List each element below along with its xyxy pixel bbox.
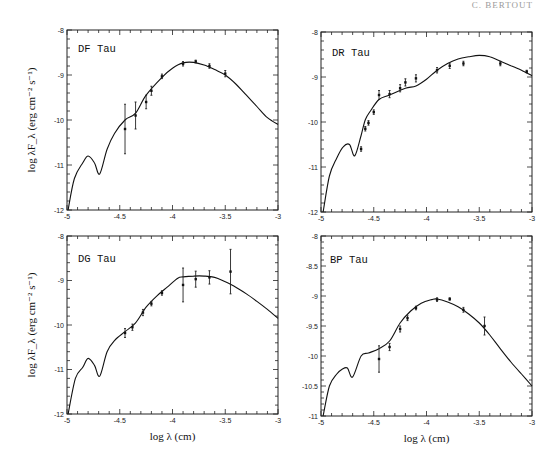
y-tick-label: -11 [54,366,64,373]
y-tick-label: -11 [54,162,64,169]
observation-point [364,127,366,132]
sed-panel-bp-tau: -5-4.5-4-3.5-3-11-10.5-10-9.5-9-8.5-8BP … [302,233,535,446]
y-tick-label: -10 [308,353,318,360]
star-name-label: DG Tau [78,253,116,265]
y-tick-label: -10 [54,117,64,124]
observation-point [373,110,375,115]
y-tick-label: -12 [54,411,64,418]
y-tick-label: -12 [308,209,318,216]
observation-point [462,61,464,66]
y-tick-label: -8 [312,233,318,240]
x-tick-label: -4.5 [368,419,380,426]
x-tick-label: -4.5 [368,215,380,222]
star-name-label: DR Tau [332,47,370,59]
observation-point [229,249,231,294]
y-axis-label: log λF_λ (erg cm⁻² s⁻¹) [25,67,38,172]
observation-point [449,63,451,68]
sed-panel-dg-tau: -5-4.5-4-3.5-3-12-11-10-9-8DG Taulog λF_… [25,233,281,444]
y-tick-label: -11 [308,164,318,171]
observation-point [182,268,184,302]
model-sed-curve [323,299,532,416]
y-tick-label: -9.5 [306,323,318,330]
y-tick-label: -10 [308,119,318,126]
observation-point [399,326,401,332]
observation-point [360,147,362,152]
model-sed-curve [323,55,532,212]
observation-point [388,343,390,350]
x-tick-label: -3 [529,419,535,426]
x-tick-label: -4 [423,215,429,222]
x-tick-label: -3 [529,215,535,222]
observation-point [462,307,464,312]
y-tick-label: -9 [312,293,318,300]
y-tick-label: -9 [312,74,318,81]
model-sed-curve [68,62,278,210]
star-name-label: DF Tau [78,43,116,55]
x-tick-label: -4 [423,419,429,426]
y-tick-label: -9 [58,277,64,284]
sed-figure: -5-4.5-4-3.5-3-12-11-10-9-8DF Taulog λF_… [0,0,539,466]
x-tick-label: -4.5 [114,417,126,424]
observation-point [483,317,485,335]
x-tick-label: -3 [275,417,281,424]
observation-point [404,79,406,86]
x-tick-label: -3.5 [473,215,485,222]
x-tick-label: -5 [318,419,324,426]
observation-point [436,298,438,302]
observation-point [195,60,197,63]
observation-point [124,104,126,154]
observation-point [134,102,136,129]
x-tick-label: -4.5 [114,213,126,220]
plot-frame [67,30,278,210]
model-sed-curve [68,276,278,414]
observation-point [378,91,380,100]
x-tick-label: -4 [169,417,175,424]
observation-point [124,329,126,338]
observation-point [449,298,451,300]
x-tick-label: -5 [64,417,70,424]
y-tick-label: -10 [54,322,64,329]
y-tick-label: -8 [58,233,64,240]
x-axis-label: log λ (cm) [404,432,450,445]
x-tick-label: -5 [318,215,324,222]
observation-point [367,121,369,126]
y-tick-label: -11 [308,413,318,420]
sed-panel-df-tau: -5-4.5-4-3.5-3-12-11-10-9-8DF Taulog λF_… [25,27,281,221]
observation-point [406,316,408,321]
observation-point [388,91,390,98]
observation-point [436,68,438,73]
observation-point [195,271,197,287]
y-tick-label: -8 [58,27,64,34]
x-tick-label: -3 [275,213,281,220]
y-tick-label: -9 [58,72,64,79]
observation-point [526,70,528,73]
x-tick-label: -4 [169,213,175,220]
y-tick-label: -8 [312,29,318,36]
sed-panel-dr-tau: -5-4.5-4-3.5-3-12-11-10-9-8DR Tau [308,29,535,223]
x-tick-label: -3.5 [219,417,231,424]
star-name-label: BP Tau [330,254,368,266]
plot-frame [321,32,532,212]
x-axis-label: log λ (cm) [150,430,196,443]
y-tick-label: -8.5 [306,263,318,270]
x-tick-label: -3.5 [473,419,485,426]
y-tick-label: -10.5 [302,383,318,390]
observation-point [208,271,210,284]
x-tick-label: -3.5 [219,213,231,220]
y-axis-label: log λF_λ (erg cm⁻² s⁻¹) [25,272,38,377]
observation-point [415,75,417,82]
x-tick-label: -5 [64,213,70,220]
y-tick-label: -12 [54,207,64,214]
